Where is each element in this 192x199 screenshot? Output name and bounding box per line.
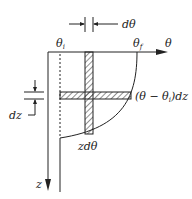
diagram-canvas: dθ θi θf θ dz (θ − θi)dz zdθ z <box>0 0 192 199</box>
dz-dimension <box>24 80 44 115</box>
theta-axis-label: θ <box>165 37 172 50</box>
z-axis <box>45 52 51 191</box>
z-axis-arrow-icon <box>45 179 51 191</box>
d-theta-label: dθ <box>122 18 136 31</box>
horizontal-strip-label: (θ − θi)dz <box>135 90 188 104</box>
d-theta-dimension <box>69 17 118 32</box>
horizontal-hatched-strip <box>60 92 131 99</box>
theta-i-label: θi <box>56 37 65 51</box>
z-axis-label: z <box>35 178 42 191</box>
dz-label: dz <box>9 109 22 122</box>
theta-axis <box>48 49 168 55</box>
theta-f-label: θf <box>133 37 144 51</box>
vertical-strip-label: zdθ <box>77 140 98 153</box>
